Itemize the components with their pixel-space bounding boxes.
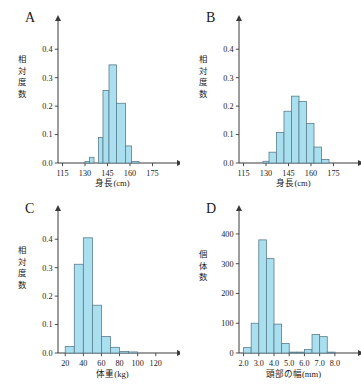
- histogram-bar: [132, 162, 140, 163]
- y-tick-label: 0.0: [42, 349, 52, 358]
- y-tick-label: 0.3: [223, 74, 233, 83]
- y-axis-title-char: 数: [18, 280, 27, 290]
- y-tick-label: 300: [221, 260, 233, 269]
- x-tick-label: 175: [146, 169, 158, 178]
- y-axis-title-char: 相: [18, 245, 26, 255]
- y-axis-title-char: 数: [199, 89, 208, 99]
- histogram-bar: [327, 352, 335, 353]
- histogram-bar: [92, 305, 101, 353]
- panel-b: B 0.00.10.20.30.4115130145160175身長(cm)相対…: [181, 0, 361, 194]
- histogram-bar: [284, 111, 292, 163]
- y-tick-label: 0.2: [42, 292, 52, 301]
- x-tick-label: 175: [327, 169, 339, 178]
- histogram-bar: [251, 323, 259, 353]
- x-axis-title: 身長(cm): [95, 177, 129, 188]
- y-tick-label: 100: [221, 319, 233, 328]
- y-tick-label: 0.4: [223, 45, 233, 54]
- y-axis-title-char: 度: [18, 268, 27, 278]
- figure-root: A 0.00.10.20.30.4115130145160175身長(cm)相対…: [0, 0, 361, 389]
- y-axis-title-char: 数: [199, 272, 208, 282]
- panel-a: A 0.00.10.20.30.4115130145160175身長(cm)相対…: [0, 0, 180, 194]
- histogram-c: 0.00.10.20.30.420406080100120体重(kg)相対度数: [0, 195, 180, 389]
- histogram-bar: [85, 162, 90, 163]
- histogram-bar: [292, 96, 300, 163]
- y-axis-title: 相対度数: [199, 54, 208, 99]
- histogram-bar: [259, 240, 267, 353]
- x-axis-title: 頭部の幅(mm): [266, 368, 321, 379]
- x-tick-label: 20: [61, 359, 69, 368]
- y-axis-title: 相対度数: [18, 245, 27, 290]
- y-axis-title-char: 対: [18, 257, 27, 267]
- histogram-bar: [299, 102, 307, 163]
- histogram-bar: [244, 348, 252, 353]
- histogram-b: 0.00.10.20.30.4115130145160175身長(cm)相対度数: [181, 0, 361, 194]
- x-tick-label: 3.0: [254, 359, 264, 368]
- histogram-bar: [266, 259, 274, 353]
- x-axis-title: 体重(kg): [96, 368, 128, 379]
- y-tick-label: 0: [229, 349, 233, 358]
- y-axis-title-char: 相: [18, 54, 26, 64]
- x-tick-label: 120: [150, 359, 162, 368]
- histogram-bar: [126, 146, 132, 163]
- histogram-bar: [274, 324, 282, 353]
- x-tick-label: 130: [260, 169, 272, 178]
- x-tick-label: 2.0: [238, 359, 248, 368]
- histogram-bar: [90, 157, 95, 163]
- x-tick-label: 40: [79, 359, 87, 368]
- y-tick-label: 400: [221, 230, 233, 239]
- y-tick-label: 0.0: [42, 159, 52, 168]
- x-tick-label: 80: [115, 359, 123, 368]
- x-tick-label: 160: [305, 169, 317, 178]
- histogram-bar: [282, 343, 290, 353]
- histogram-bar: [320, 337, 328, 353]
- x-tick-label: 5.0: [284, 359, 294, 368]
- y-tick-label: 0.2: [223, 102, 233, 111]
- bar-group: [263, 96, 329, 163]
- y-axis-title: 個体数: [199, 249, 208, 282]
- histogram-a: 0.00.10.20.30.4115130145160175身長(cm)相対度数: [0, 0, 180, 194]
- y-axis-title-char: 対: [18, 66, 27, 76]
- x-tick-label: 115: [57, 169, 69, 178]
- bar-group: [65, 238, 137, 353]
- histogram-bar: [74, 264, 83, 353]
- y-axis-title-char: 度: [18, 77, 27, 87]
- histogram-bar: [304, 349, 312, 353]
- histogram-d: 01002003004002.03.04.05.06.07.08.0頭部の幅(m…: [181, 195, 361, 389]
- y-tick-label: 0.3: [42, 74, 52, 83]
- x-tick-label: 100: [132, 359, 144, 368]
- bar-group: [85, 65, 139, 163]
- histogram-bar: [312, 335, 320, 353]
- histogram-bar: [263, 161, 269, 163]
- y-tick-label: 0.1: [42, 130, 52, 139]
- y-tick-label: 0.4: [42, 45, 52, 54]
- y-tick-label: 0.4: [42, 235, 52, 244]
- x-axis-title: 身長(cm): [276, 177, 310, 188]
- x-tick-label: 130: [79, 169, 91, 178]
- histogram-bar: [269, 152, 277, 163]
- y-tick-label: 0.1: [223, 130, 233, 139]
- y-tick-label: 0.3: [42, 264, 52, 273]
- histogram-bar: [314, 147, 322, 163]
- x-tick-label: 6.0: [299, 359, 309, 368]
- histogram-bar: [129, 352, 138, 353]
- y-tick-label: 0.0: [223, 159, 233, 168]
- y-axis-title-char: 度: [199, 77, 208, 87]
- y-tick-label: 0.2: [42, 102, 52, 111]
- x-tick-label: 7.0: [315, 359, 325, 368]
- x-tick-label: 145: [282, 169, 294, 178]
- x-tick-label: 8.0: [330, 359, 340, 368]
- y-axis-title-char: 相: [199, 54, 207, 64]
- histogram-bar: [101, 337, 110, 353]
- histogram-bar: [289, 352, 297, 353]
- histogram-bar: [111, 347, 120, 353]
- histogram-bar: [277, 133, 285, 163]
- histogram-bar: [83, 238, 92, 353]
- y-axis-title: 相対度数: [18, 54, 27, 99]
- x-tick-label: 60: [97, 359, 105, 368]
- histogram-bar: [109, 65, 117, 163]
- x-tick-label: 160: [124, 169, 136, 178]
- panel-d: D 01002003004002.03.04.05.06.07.08.0頭部の幅…: [181, 195, 361, 389]
- x-tick-label: 115: [238, 169, 250, 178]
- x-tick-label: 145: [101, 169, 113, 178]
- histogram-bar: [99, 137, 104, 163]
